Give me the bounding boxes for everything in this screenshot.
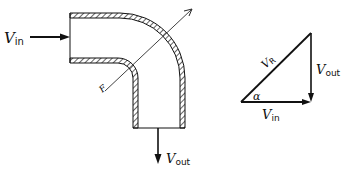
angle-alpha-label: α bbox=[253, 90, 261, 103]
tri-v-in-label: Vin bbox=[262, 107, 280, 123]
pipe-elbow bbox=[70, 13, 185, 128]
v-r-side bbox=[241, 33, 311, 102]
tri-v-out-label: Vout bbox=[316, 62, 341, 78]
v-in-arrow bbox=[30, 34, 70, 41]
arrowhead-icon bbox=[155, 154, 162, 164]
v-out-arrow bbox=[155, 128, 162, 164]
v-out-label: Vout bbox=[166, 151, 191, 167]
arrowhead-icon bbox=[60, 34, 70, 41]
arrowhead-icon bbox=[302, 99, 311, 105]
velocity-triangle bbox=[241, 33, 314, 105]
diagram-canvas: Vin Vout F VR Vout Vin α bbox=[0, 0, 343, 173]
arrowhead-icon bbox=[308, 93, 314, 102]
v-in-label: Vin bbox=[4, 29, 24, 47]
pipe-outer-wall bbox=[70, 13, 185, 128]
